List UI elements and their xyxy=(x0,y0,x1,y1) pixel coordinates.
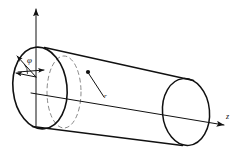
cylinder-top-edge xyxy=(45,48,194,81)
cylinder-right-face xyxy=(160,77,213,148)
figure-canvas: φ r z xyxy=(0,0,241,158)
radial-leader-line xyxy=(88,73,104,98)
cylinder-bottom-edge xyxy=(33,127,183,146)
z-axis-line xyxy=(31,93,224,125)
dashed-cross-section-ellipse xyxy=(47,56,81,128)
point-marker xyxy=(86,70,90,74)
z-axis-label: z xyxy=(226,113,229,121)
radial-coordinate-label: r xyxy=(104,93,107,100)
azimuthal-angle-label: φ xyxy=(27,56,32,65)
angle-arc xyxy=(25,65,28,74)
cylinder-coordinate-diagram xyxy=(0,0,241,158)
